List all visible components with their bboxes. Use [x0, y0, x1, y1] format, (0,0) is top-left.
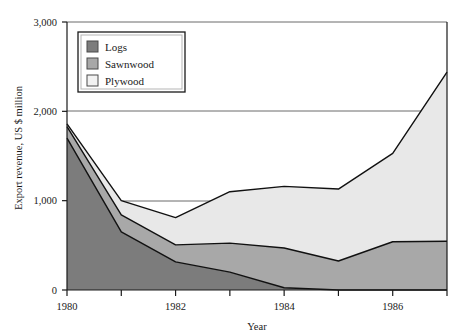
area-chart-svg: 01,0002,0003,000 1980198219841986 Export… — [0, 0, 464, 336]
y-axis-title: Export revenue, US $ million — [13, 85, 24, 210]
x-tick-label: 1986 — [382, 301, 403, 312]
x-tick-label: 1984 — [274, 301, 296, 312]
x-axis-title: Year — [247, 321, 267, 332]
legend-label-logs: Logs — [105, 41, 127, 53]
y-tick-label: 3,000 — [33, 17, 57, 28]
legend-label-sawnwood: Sawnwood — [105, 58, 154, 70]
y-tick-label: 2,000 — [33, 106, 57, 117]
legend-label-plywood: Plywood — [105, 75, 145, 87]
legend-swatch-sawnwood — [87, 58, 98, 69]
chart-container: 01,0002,0003,000 1980198219841986 Export… — [0, 0, 464, 336]
y-tick-label: 1,000 — [33, 195, 57, 206]
legend-swatch-logs — [87, 41, 98, 52]
legend: LogsSawnwoodPlywood — [78, 32, 185, 92]
x-tick-label: 1980 — [57, 301, 78, 312]
x-axis-ticks: 1980198219841986 — [57, 290, 448, 312]
y-axis-ticks: 01,0002,0003,000 — [33, 17, 67, 296]
legend-swatch-plywood — [87, 75, 98, 86]
y-tick-label: 0 — [52, 285, 57, 296]
x-tick-label: 1982 — [165, 301, 186, 312]
